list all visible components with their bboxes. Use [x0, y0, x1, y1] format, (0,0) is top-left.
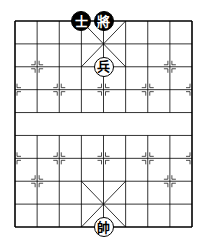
position-marker — [142, 160, 146, 164]
position-marker — [31, 183, 35, 187]
position-marker — [61, 160, 65, 164]
position-marker — [106, 160, 110, 164]
black-general-piece[interactable]: 將 — [94, 11, 114, 31]
position-marker — [186, 152, 190, 156]
position-marker — [31, 69, 35, 73]
board-grid — [15, 21, 192, 227]
position-marker — [39, 69, 43, 73]
red-soldier-piece[interactable]: 兵 — [94, 57, 114, 77]
position-marker — [39, 175, 43, 179]
position-marker — [98, 160, 102, 164]
piece-label: 士 — [75, 15, 88, 28]
position-marker — [150, 84, 154, 88]
position-marker — [31, 61, 35, 65]
position-marker — [172, 175, 176, 179]
position-marker — [39, 183, 43, 187]
position-marker — [53, 92, 57, 96]
position-marker — [164, 175, 168, 179]
position-marker — [53, 152, 57, 156]
position-marker — [150, 92, 154, 96]
position-marker — [61, 84, 65, 88]
position-marker — [17, 92, 21, 96]
piece-label: 兵 — [97, 60, 110, 73]
position-marker — [17, 84, 21, 88]
position-marker — [172, 61, 176, 65]
position-marker — [106, 152, 110, 156]
position-marker — [31, 175, 35, 179]
position-marker — [53, 84, 57, 88]
position-marker — [106, 84, 110, 88]
position-marker — [164, 183, 168, 187]
position-marker — [98, 92, 102, 96]
position-marker — [186, 92, 190, 96]
position-marker — [142, 152, 146, 156]
position-marker — [98, 152, 102, 156]
piece-label: 將 — [97, 15, 110, 28]
position-marker — [17, 160, 21, 164]
position-marker — [164, 61, 168, 65]
position-marker — [142, 92, 146, 96]
position-marker — [61, 152, 65, 156]
position-marker — [17, 152, 21, 156]
red-general-piece[interactable]: 帥 — [94, 217, 114, 237]
position-marker — [186, 160, 190, 164]
position-marker — [53, 160, 57, 164]
position-marker — [142, 84, 146, 88]
piece-label: 帥 — [97, 221, 110, 234]
position-marker — [164, 69, 168, 73]
position-marker — [150, 152, 154, 156]
position-marker — [172, 183, 176, 187]
position-marker — [98, 84, 102, 88]
position-marker — [150, 160, 154, 164]
position-marker — [172, 69, 176, 73]
position-marker — [106, 92, 110, 96]
xiangqi-board[interactable] — [0, 0, 208, 244]
position-marker — [61, 92, 65, 96]
position-marker — [39, 61, 43, 65]
position-marker — [186, 84, 190, 88]
